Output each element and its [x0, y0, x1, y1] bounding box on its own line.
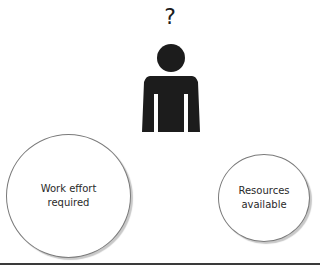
circle-label-line: available: [238, 198, 289, 212]
bottom-divider: [0, 263, 320, 265]
circle-label-line: required: [41, 196, 97, 210]
circle-label-line: Work effort: [41, 182, 97, 196]
person-icon: [142, 44, 200, 132]
work-effort-circle: Work effort required: [6, 134, 131, 258]
resources-circle: Resources available: [218, 154, 310, 242]
question-mark-icon: ?: [160, 6, 180, 28]
circle-label-line: Resources: [238, 184, 289, 198]
